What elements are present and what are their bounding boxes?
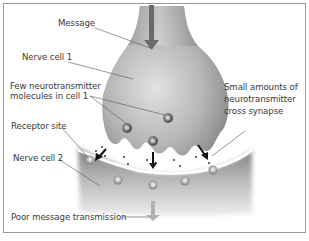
label-message: Message: [58, 18, 95, 29]
nerve-cell-2: [78, 148, 252, 216]
label-few-neurotransmitter-2: molecules in cell 1: [10, 91, 88, 102]
label-small-amounts-3: cross synapse: [224, 106, 283, 117]
label-nerve-cell-1: Nerve cell 1: [22, 52, 72, 63]
nerve-cell-1: [102, 6, 228, 156]
label-nerve-cell-2: Nerve cell 2: [13, 153, 63, 164]
label-small-amounts-2: neurotransmitter: [224, 94, 296, 105]
label-small-amounts-1: Small amounts of: [224, 82, 298, 93]
label-poor-transmission: Poor message transmission: [11, 212, 126, 223]
label-receptor-site: Receptor site: [11, 121, 66, 132]
